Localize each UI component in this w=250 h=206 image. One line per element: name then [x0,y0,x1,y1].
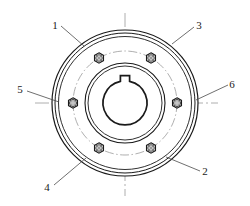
bolt-top-right [147,53,156,63]
flange-coupling-drawing: 1 3 5 6 4 2 [0,0,250,206]
callout-6-leader-line [196,85,228,100]
callout-label-1: 1 [52,19,58,31]
technical-drawing-canvas: 1 3 5 6 4 2 [0,0,250,206]
bolt-bottom-right [147,143,156,153]
callout-label-3: 3 [196,19,202,31]
callout-label-4: 4 [44,181,50,193]
bolt-left [69,98,78,108]
callout-2-leader-line [166,157,200,171]
callout-label-6: 6 [229,78,235,90]
callout-4-leader-line [54,158,86,185]
callout-label-2: 2 [202,165,208,177]
callout-3-leader-line [172,27,194,44]
bolt-top-left [95,53,104,63]
callout-label-5: 5 [17,83,23,95]
bolt-right [173,98,182,108]
callout-1-leader-line [61,26,84,46]
bolt-bottom-left [95,143,104,153]
